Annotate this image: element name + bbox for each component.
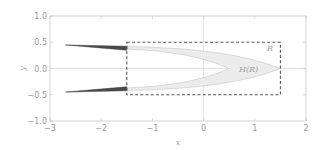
- label-hr: H(R): [238, 65, 258, 74]
- chart: R H(R) −3 −2 −1 0 1 2 1.0 0.5 0.0 −0.5 −…: [0, 0, 325, 150]
- upper-wedge: [65, 45, 126, 50]
- x-axis-title: x: [176, 138, 181, 147]
- svg-text:1: 1: [252, 124, 257, 133]
- y-tick-labels: 1.0 0.5 0.0 −0.5 −1.0: [28, 12, 47, 126]
- svg-text:−0.5: −0.5: [28, 91, 47, 100]
- y-axis-title: y: [18, 66, 27, 72]
- svg-text:−1.0: −1.0: [28, 117, 47, 126]
- svg-text:1.0: 1.0: [34, 12, 47, 21]
- svg-text:0.5: 0.5: [34, 38, 47, 47]
- svg-text:0: 0: [201, 124, 206, 133]
- x-tick-labels: −3 −2 −1 0 1 2: [44, 124, 308, 133]
- svg-text:0.0: 0.0: [34, 65, 47, 74]
- svg-text:−1: −1: [147, 124, 159, 133]
- svg-text:−2: −2: [95, 124, 107, 133]
- label-r: R: [266, 44, 273, 53]
- lower-wedge: [65, 87, 126, 92]
- svg-text:2: 2: [303, 124, 308, 133]
